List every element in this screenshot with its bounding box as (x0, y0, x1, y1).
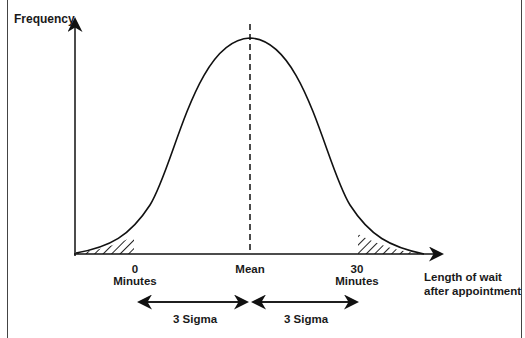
tick-mean: Mean (225, 262, 275, 276)
y-axis-label: Frequency (14, 12, 75, 26)
x-axis-label-line2: after appointment (424, 284, 521, 298)
tick-right-unit: Minutes (332, 274, 382, 288)
tick-left-unit: Minutes (110, 274, 160, 288)
sigma-label-right: 3 Sigma (276, 312, 336, 326)
x-axis-label-line1: Length of wait (424, 270, 502, 284)
sigma-label-left: 3 Sigma (165, 312, 225, 326)
